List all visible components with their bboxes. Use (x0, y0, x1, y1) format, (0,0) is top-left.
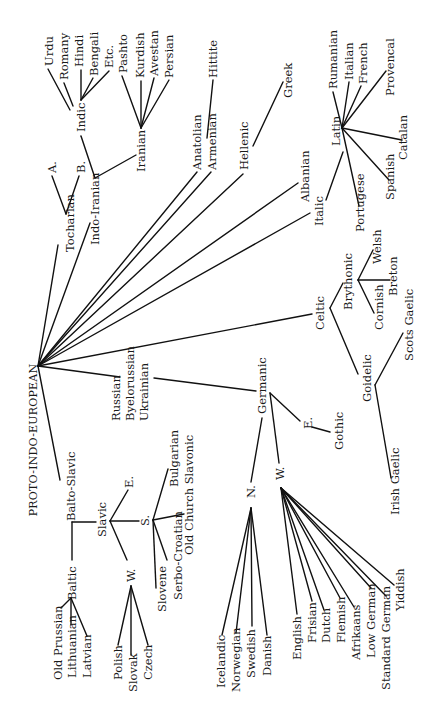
edge-w-afrikaans (281, 488, 354, 607)
node-swedish: Swedish (244, 629, 258, 678)
node-frisian: Frisian (305, 601, 319, 643)
edge-pie-russian (38, 366, 120, 377)
node-albanian: Albanian (298, 150, 312, 203)
node-lithuanian: Lithuanian (65, 614, 79, 678)
node-tocharian: Tocharian (63, 194, 77, 252)
node-brythonic: Brythonic (341, 253, 355, 310)
node-spanish: Spanish (383, 153, 397, 200)
node-anatolian: Anatolian (190, 114, 204, 171)
node-polish: Polish (111, 645, 125, 680)
node-pashto: Pashto (116, 34, 130, 73)
edge-w-czech (131, 586, 148, 645)
node-ukrainian: Ukrainian (137, 362, 151, 421)
node-serbo-croatian: Serbo-Croatian (171, 510, 185, 600)
node-czech: Czech (141, 644, 155, 680)
node-slovene: Slovene (155, 566, 169, 612)
node-russian: Russian (109, 375, 123, 421)
node-afrikaans: Afrikaans (349, 604, 363, 661)
edge-pie-albanian (38, 183, 298, 366)
node-indo-iranian: Indo-Iranian (88, 172, 102, 245)
edge-iranian-pashto (122, 76, 141, 128)
node-gothic: Gothic (332, 412, 346, 450)
node-germanic: Germanic (255, 357, 269, 414)
node-catalan: Catalan (396, 114, 410, 160)
node-cornish: Cornish (372, 284, 386, 330)
node-goidelic: Goidelic (360, 354, 374, 402)
edge-n-norwegian (236, 508, 251, 633)
node-bengali: Bengali (87, 31, 101, 76)
node-hellenic: Hellenic (237, 121, 251, 170)
node-celtic: Celtic (313, 296, 327, 330)
node-persian: Persian (162, 34, 176, 78)
node-slavic-e: E. (122, 476, 136, 488)
edge-pie-celtic (38, 314, 312, 366)
node-italian: Italian (342, 42, 356, 80)
node-tocharian-b: B. (74, 161, 88, 173)
tree-labels: PROTO-INDO-EUROPEAN Tocharian A. B. Indo… (27, 29, 416, 692)
edge-slavic-e (110, 490, 128, 521)
node-latvian: Latvian (80, 634, 94, 678)
edge-s-bulgarian (153, 469, 168, 520)
node-irish-gaelic: Irish Gaelic (388, 448, 402, 515)
node-old-prussian: Old Prussian (51, 605, 65, 680)
node-tocharian-a: A. (45, 161, 59, 174)
edge-w-polish (118, 586, 131, 645)
edge-n-danish (251, 508, 267, 635)
node-iranian: Iranian (134, 129, 148, 172)
edge-n-icelandic (222, 508, 251, 635)
node-danish: Danish (260, 635, 274, 676)
edge-w-english (281, 488, 297, 614)
node-norwegian: Norwegian (229, 627, 243, 692)
node-portugese: Portugese (353, 173, 367, 232)
edge-iranian-persian (141, 80, 169, 128)
node-hittite: Hittite (206, 40, 220, 78)
node-breton: Breton (386, 256, 400, 296)
node-welsh: Welsh (370, 229, 384, 264)
node-dutch: Dutch (319, 607, 333, 643)
node-scots-gaelic: Scots Gaelic (402, 289, 416, 361)
node-balto-slavic: Balto-Slavic (64, 452, 78, 521)
node-romany: Romany (57, 32, 71, 80)
edge-ukrainian-germanic (154, 378, 256, 391)
node-rumanian: Rumanian (326, 29, 340, 89)
node-slavic: Slavic (95, 502, 109, 537)
edge-n-swedish (251, 508, 252, 626)
edge-germanic-e (270, 393, 300, 421)
edge-slavic-w (110, 521, 127, 560)
node-proto-indo-european: PROTO-INDO-EUROPEAN (27, 364, 40, 517)
language-tree-diagram: PROTO-INDO-EUROPEAN Tocharian A. B. Indo… (0, 0, 442, 720)
node-flemish: Flemish (334, 596, 348, 643)
node-avestan: Avestan (147, 29, 161, 77)
node-germanic-e: E. (301, 417, 315, 429)
node-italic: Italic (312, 196, 326, 226)
edge-pie-italic (38, 213, 310, 366)
node-icelandic: Icelandic (214, 635, 228, 688)
edge-pie-balto-slavic (38, 366, 60, 480)
node-baltic: Baltic (65, 566, 79, 600)
node-urdu: Urdu (42, 36, 56, 66)
node-provencal: Provencal (383, 38, 397, 96)
edge-celtic-goidelic (330, 308, 358, 374)
edge-germanic-w (270, 393, 279, 463)
node-greek: Greek (281, 62, 295, 98)
node-kurdish: Kurdish (133, 32, 147, 78)
tree-edges (38, 69, 403, 655)
node-byelorussian: Byelorussian (123, 345, 137, 421)
edge-germanic-n (251, 418, 262, 482)
node-slovak: Slovak (126, 652, 140, 692)
edge-goidelic-scots-gaelic (375, 333, 403, 385)
node-english: English (290, 616, 304, 660)
node-indic: Indic (74, 103, 88, 132)
node-low-german: Low German (364, 583, 378, 658)
node-slavic-w: W. (124, 569, 138, 582)
node-slavic-s: S. (138, 515, 152, 526)
node-armenian: Armenian (205, 113, 219, 171)
node-germanic-n: N. (244, 485, 258, 498)
node-hindi: Hindi (72, 35, 86, 67)
edge-hellenic-greek (253, 82, 283, 146)
node-etc: Etc. (102, 45, 116, 68)
edge-iranian-avestan (141, 78, 154, 128)
node-germanic-w: W. (273, 467, 287, 480)
node-latin: Latin (329, 115, 343, 146)
node-french: French (356, 42, 370, 84)
